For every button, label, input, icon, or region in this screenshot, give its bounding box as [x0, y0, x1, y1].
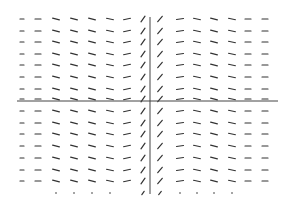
slope-segment — [141, 120, 145, 126]
slope-segment — [89, 88, 96, 90]
slope-segment — [53, 133, 60, 135]
slope-segment — [194, 76, 201, 77]
slope-segment — [229, 64, 236, 65]
slope-segment — [89, 41, 96, 43]
slope-segment — [211, 122, 218, 124]
slope-dot — [55, 192, 57, 194]
slope-segment — [194, 145, 201, 146]
slope-segment — [211, 169, 218, 171]
slope-segment — [89, 18, 96, 20]
slope-segment — [53, 64, 60, 66]
slope-segment — [107, 64, 114, 65]
slope-segment — [141, 51, 145, 57]
slope-segment — [177, 65, 184, 66]
slope-segment — [229, 18, 236, 19]
slope-segment — [158, 62, 163, 67]
slope-segment — [194, 133, 201, 134]
slope-segment — [177, 99, 184, 100]
slope-segment — [107, 76, 114, 77]
slope-segment — [107, 88, 114, 89]
slope-segment — [71, 110, 78, 112]
slope-segment — [177, 158, 184, 159]
direction-segments — [20, 16, 268, 195]
slope-segment — [71, 98, 78, 100]
slope-field-plot — [0, 0, 292, 204]
slope-segment — [177, 111, 184, 112]
slope-segment — [53, 157, 60, 159]
slope-segment — [194, 98, 201, 99]
slope-segment — [89, 169, 96, 171]
slope-segment — [53, 53, 60, 55]
slope-segment — [71, 88, 78, 90]
slope-segment — [229, 145, 236, 146]
slope-segment — [158, 120, 163, 125]
slope-segment — [229, 157, 236, 158]
slope-segment — [53, 122, 60, 124]
slope-segment — [194, 122, 201, 123]
slope-segment — [211, 41, 218, 43]
slope-segment — [53, 30, 60, 32]
slope-segment — [89, 157, 96, 159]
slope-segment — [158, 131, 163, 136]
slope-segment — [141, 16, 145, 22]
slope-segment — [71, 76, 78, 78]
slope-segment — [107, 180, 114, 181]
slope-segment — [53, 41, 60, 43]
slope-segment — [71, 41, 78, 43]
slope-segment — [229, 30, 236, 31]
slope-segment — [89, 180, 96, 182]
slope-segment — [89, 76, 96, 78]
slope-segment — [194, 157, 201, 158]
slope-segment — [141, 28, 145, 34]
slope-segment — [107, 18, 114, 19]
slope-segment — [71, 18, 78, 20]
slope-segment — [158, 39, 163, 44]
slope-segment — [71, 53, 78, 55]
slope-segment — [107, 133, 114, 134]
slope-segment — [211, 180, 218, 182]
slope-segment — [124, 110, 131, 111]
slope-segment — [211, 30, 218, 32]
slope-segment — [194, 169, 201, 170]
slope-segment — [141, 74, 145, 80]
slope-segment — [89, 64, 96, 66]
slope-segment — [194, 41, 201, 42]
slope-segment — [141, 143, 145, 149]
slope-segment — [53, 169, 60, 171]
slope-segment — [211, 157, 218, 159]
slope-segment — [158, 178, 163, 183]
slope-segment — [124, 41, 131, 42]
slope-segment — [141, 131, 145, 137]
slope-segment — [177, 54, 184, 55]
slope-segment — [211, 76, 218, 78]
slope-segment — [124, 98, 131, 99]
slope-segment — [194, 30, 201, 31]
slope-segment — [71, 133, 78, 135]
slope-segment — [53, 145, 60, 147]
slope-segment — [177, 181, 184, 182]
slope-segment — [177, 77, 184, 78]
slope-segment — [71, 169, 78, 171]
slope-segment — [194, 18, 201, 19]
slope-segment — [229, 88, 236, 89]
slope-segment — [53, 18, 60, 20]
slope-segment — [71, 180, 78, 182]
slope-dot — [179, 192, 181, 194]
slope-segment — [71, 64, 78, 66]
slope-segment — [141, 39, 145, 45]
slope-segment — [158, 143, 163, 148]
slope-segment — [229, 180, 236, 181]
slope-segment — [158, 28, 163, 33]
slope-segment — [107, 157, 114, 158]
slope-segment — [141, 178, 145, 184]
slope-segment — [158, 155, 163, 160]
slope-segment — [53, 88, 60, 90]
slope-segment — [211, 88, 218, 90]
slope-segment — [158, 51, 163, 56]
slope-segment — [141, 62, 145, 68]
slope-segment — [107, 169, 114, 170]
slope-segment — [53, 180, 60, 182]
slope-segment — [177, 170, 184, 171]
slope-segment — [177, 31, 184, 32]
slope-segment — [229, 133, 236, 134]
